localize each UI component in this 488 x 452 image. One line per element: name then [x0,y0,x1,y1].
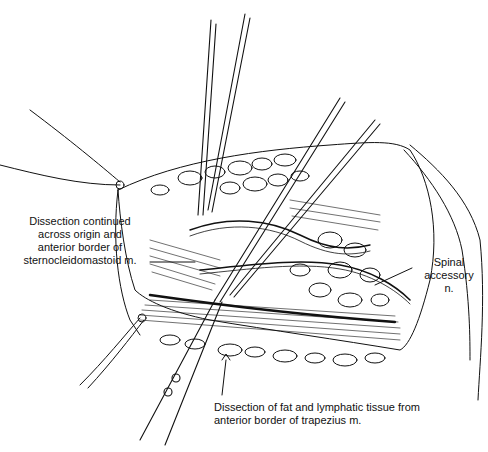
label-line: anterior border of [4,241,156,254]
illustration-canvas: Dissection continued across origin and a… [0,0,488,452]
scissors [198,14,250,215]
label-line: across origin and [4,228,156,241]
suction-tip [140,300,222,445]
label-line: Spinal [414,256,484,269]
dissection-margin [150,295,395,322]
label-spinal-accessory-nerve: Spinal accessory n. [414,256,484,295]
fat-lobules-upper [151,154,309,195]
label-line: Dissection continued [4,215,156,228]
label-line: sternocleidomastoid m. [4,254,156,267]
retractor-upper [0,110,124,189]
leader-spinal [375,268,412,285]
label-sternocleidomastoid-dissection: Dissection continued across origin and a… [4,215,156,267]
leader-trapezius [222,360,226,395]
retractor-lower [80,314,146,388]
forceps [215,98,380,302]
label-line: Dissection of fat and lymphatic tissue f… [214,401,484,414]
label-trapezius-dissection: Dissection of fat and lymphatic tissue f… [214,401,484,427]
label-line: accessory [414,269,484,282]
label-line: anterior border of trapezius m. [214,414,484,427]
label-line: n. [414,282,484,295]
